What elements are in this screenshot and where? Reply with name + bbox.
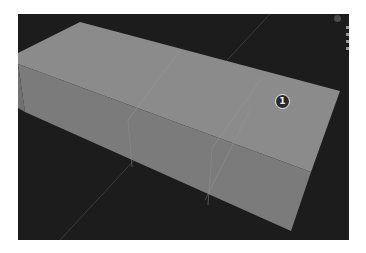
scene-render xyxy=(18,14,349,240)
annotation-marker: 1 xyxy=(275,94,290,109)
view-gizmo-icon[interactable] xyxy=(334,15,341,22)
viewport-toolbar xyxy=(346,26,349,52)
3d-viewport[interactable]: 1 xyxy=(18,14,349,240)
